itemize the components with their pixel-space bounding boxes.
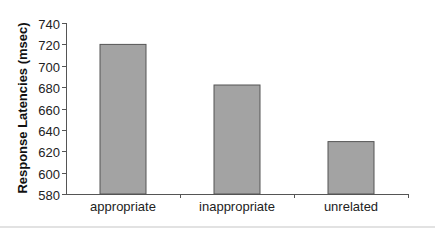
y-tick-label: 660 <box>20 102 60 117</box>
bar-chart: Response Latencies (msec) 58060062064066… <box>0 0 435 229</box>
y-tick-label: 640 <box>20 123 60 138</box>
y-tick-label: 700 <box>20 59 60 74</box>
bar-appropriate <box>100 44 146 194</box>
y-tick-label: 580 <box>20 187 60 202</box>
y-tick-label: 720 <box>20 37 60 52</box>
divider <box>0 226 435 228</box>
x-tick-label: appropriate <box>68 199 178 214</box>
y-tick-label: 680 <box>20 80 60 95</box>
bar-inappropriate <box>214 85 260 194</box>
x-tick-label: unrelated <box>296 199 406 214</box>
x-tick-label: inappropriate <box>182 199 292 214</box>
plot-area <box>0 0 435 229</box>
y-tick-label: 740 <box>20 16 60 31</box>
y-tick-label: 600 <box>20 166 60 181</box>
y-tick-label: 620 <box>20 144 60 159</box>
bar-unrelated <box>328 142 374 194</box>
